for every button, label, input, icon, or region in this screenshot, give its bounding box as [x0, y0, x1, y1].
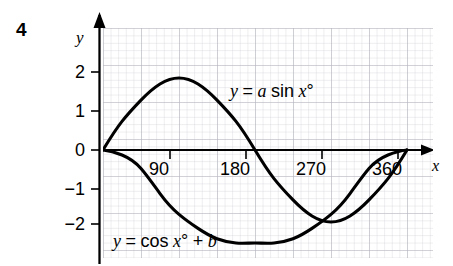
- x-tick-label-270: 270: [296, 160, 326, 178]
- plot-area: [103, 28, 433, 258]
- y-axis-line: [103, 28, 433, 258]
- x-tick-label-360: 360: [372, 160, 402, 178]
- y-tick-label-neg2: −2: [44, 215, 85, 233]
- y-tick-label-2: 2: [52, 63, 85, 81]
- question-number: 4: [16, 20, 27, 39]
- y-tick-label-neg1: −1: [44, 180, 85, 198]
- y-tick-label-1: 1: [52, 102, 85, 120]
- y-axis-label: y: [76, 29, 84, 46]
- y-tick-label-0: 0: [52, 141, 85, 159]
- x-tick-label-90: 90: [149, 160, 169, 178]
- sine-curve-equation-label: y = a sin x° y = a sin x°: [230, 82, 314, 100]
- x-axis-label: x: [432, 158, 439, 174]
- figure-container: 4: [0, 0, 453, 266]
- x-tick-label-180: 180: [220, 160, 250, 178]
- y-axis-tick-marks: [91, 72, 100, 224]
- cosine-curve-equation-label: y = cos x° + b y = cos x° + b: [113, 232, 217, 250]
